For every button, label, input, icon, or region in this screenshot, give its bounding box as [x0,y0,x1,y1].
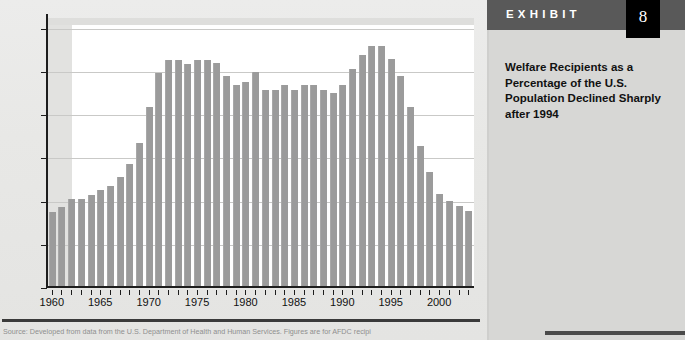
x-tick-mark [459,290,460,295]
x-tick-mark [139,290,140,295]
bar-1967 [117,177,124,286]
bar-1986 [301,85,308,286]
bar-1960 [49,212,56,286]
bar-2001 [446,201,453,286]
x-tick-label: 1960 [40,296,64,308]
exhibit-caption: Welfare Recipients as a Percentage of th… [505,60,665,122]
x-tick-mark [284,290,285,295]
bar-1987 [310,85,317,286]
x-tick-mark [71,290,72,295]
y-axis-line [46,14,48,288]
bar-1996 [397,76,404,286]
bar-1963 [78,199,85,286]
bar-1970 [146,107,153,286]
source-note: Source: Developed from data from the U.S… [3,327,483,336]
bar-1974 [184,64,191,286]
x-tick-mark [81,290,82,295]
x-tick-mark [100,290,101,295]
bar-1981 [252,72,259,286]
x-tick-mark [255,290,256,295]
bar-1962 [68,199,75,286]
x-tick-mark [342,290,343,295]
x-tick-mark [400,290,401,295]
y-tick-mark [41,288,47,289]
exhibit-bottom-rule [545,331,685,335]
x-tick-mark [265,290,266,295]
x-axis-line [46,286,474,288]
x-tick-mark [391,290,392,295]
x-tick-mark [304,290,305,295]
bar-2002 [456,206,463,286]
x-tick-mark [236,290,237,295]
x-tick-mark [323,290,324,295]
bar-1985 [291,90,298,286]
x-tick-mark [275,290,276,295]
panel-left-edge [487,30,489,340]
bar-1971 [155,73,162,286]
bar-series [46,18,474,286]
bar-1961 [58,207,65,286]
bar-1994 [378,46,385,286]
figure-bottom-rule [2,319,480,322]
bar-1964 [88,195,95,286]
bar-1968 [126,164,133,286]
x-tick-mark [371,290,372,295]
x-tick-mark [61,290,62,295]
chart-figure: Percentage of population 196019651970197… [0,0,490,340]
x-tick-mark [439,290,440,295]
bar-1969 [136,143,143,287]
bar-1972 [165,60,172,286]
bar-1997 [407,107,414,286]
x-tick-mark [197,290,198,295]
x-tick-mark [91,290,92,295]
x-tick-label: 1975 [185,296,209,308]
exhibit-label: EXHIBIT [506,8,581,20]
x-tick-mark [410,290,411,295]
x-tick-mark [381,290,382,295]
x-tick-mark [352,290,353,295]
x-tick-mark [110,290,111,295]
x-tick-mark [420,290,421,295]
bar-1995 [388,59,395,286]
x-tick-mark [226,290,227,295]
page-background: Percentage of population 196019651970197… [0,0,685,340]
bar-1975 [194,60,201,286]
x-tick-mark [313,290,314,295]
bar-1966 [107,186,114,286]
bar-1992 [359,55,366,286]
x-tick-label: 1995 [378,296,402,308]
x-tick-label: 1985 [282,296,306,308]
bar-1977 [213,63,220,286]
bar-1999 [426,172,433,286]
bar-1982 [262,90,269,286]
x-axis-ticks: 196019651970197519801985199019952000 [46,290,474,314]
x-tick-mark [187,290,188,295]
x-tick-label: 1990 [330,296,354,308]
bar-1983 [272,90,279,286]
x-tick-mark [294,290,295,295]
x-tick-mark [129,290,130,295]
bar-1990 [339,85,346,286]
bar-1988 [320,90,327,286]
bar-1998 [417,146,424,286]
x-tick-mark [429,290,430,295]
bar-1980 [242,82,249,286]
bar-1978 [223,76,230,286]
exhibit-number: 8 [626,7,660,27]
x-tick-mark [120,290,121,295]
exhibit-number-box: 8 [626,0,660,38]
x-tick-mark [149,290,150,295]
exhibit-panel: EXHIBIT 8 Welfare Recipients as a Percen… [487,0,685,340]
x-tick-mark [449,290,450,295]
bar-2003 [465,211,472,286]
x-tick-label: 1980 [233,296,257,308]
bar-1965 [97,190,104,286]
x-tick-mark [158,290,159,295]
x-tick-mark [178,290,179,295]
bar-1993 [368,46,375,286]
bar-1976 [204,60,211,287]
x-tick-label: 1970 [136,296,160,308]
bar-1989 [330,93,337,286]
bar-1991 [349,69,356,286]
bar-1979 [233,85,240,286]
